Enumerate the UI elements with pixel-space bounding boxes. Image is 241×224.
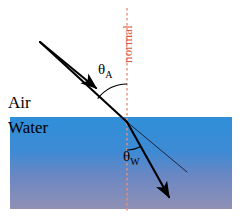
theta-water-subscript: W	[130, 156, 139, 167]
normal-label: normal	[121, 25, 134, 63]
theta-air-arc	[98, 84, 127, 99]
air-label: Air	[8, 94, 31, 111]
theta-air-subscript: A	[105, 69, 112, 80]
water-label: Water	[8, 119, 48, 136]
incident-ray-to-surface	[40, 42, 127, 122]
theta-air-label: θA	[98, 62, 112, 80]
refraction-diagram: Air Water θA θW normal	[0, 0, 241, 224]
theta-water-label: θW	[123, 149, 140, 167]
